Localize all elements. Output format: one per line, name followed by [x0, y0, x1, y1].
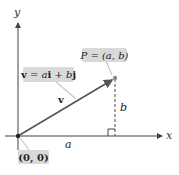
component-a-label: a: [65, 138, 72, 151]
leader-line-origin: [20, 138, 30, 151]
point-p: [113, 76, 117, 80]
point-p-label: P = (a, b): [80, 48, 129, 62]
eq-equals: =: [27, 69, 42, 80]
origin-point: [16, 134, 20, 138]
eq-plus: +: [51, 69, 66, 80]
svg-text:P = (a, b): P = (a, b): [80, 50, 129, 61]
x-axis-label: x: [166, 129, 173, 142]
vector-v-arrow: [18, 80, 112, 136]
y-axis-label: y: [13, 6, 21, 19]
vector-v-label: v: [57, 94, 65, 105]
leader-line-p: [106, 61, 112, 75]
vector-diagram: y x P = (a, b) v = ai + bj: [0, 0, 179, 175]
svg-text:v = ai + bj: v = ai + bj: [20, 69, 76, 80]
vector-equation-label: v = ai + bj: [20, 67, 76, 82]
component-b-label: b: [120, 101, 127, 114]
right-angle-marker: [108, 129, 115, 136]
svg-text:(0, 0): (0, 0): [18, 152, 48, 164]
eq-j: j: [71, 69, 76, 80]
origin-label: (0, 0): [18, 150, 49, 164]
